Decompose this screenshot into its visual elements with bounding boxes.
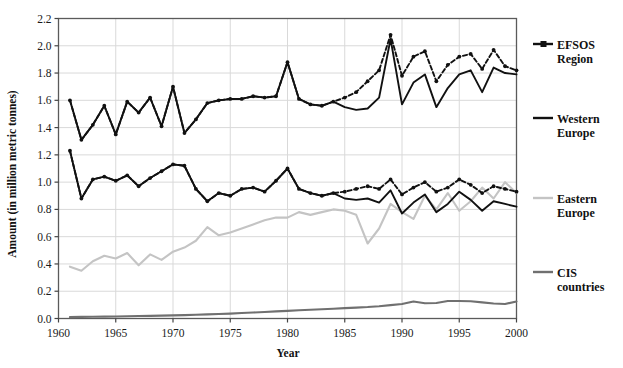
data-point-marker <box>160 169 164 173</box>
y-tick-label: 0.0 <box>37 313 52 325</box>
data-point-marker <box>377 68 381 72</box>
data-point-marker <box>331 100 335 104</box>
data-point-marker <box>297 187 301 191</box>
data-point-marker <box>446 63 450 67</box>
legend-label-line2: Region <box>557 52 593 66</box>
legend-marker-icon <box>541 41 547 47</box>
x-tick-label: 1990 <box>391 327 414 339</box>
data-point-marker <box>148 176 152 180</box>
data-point-marker <box>263 96 267 100</box>
y-tick-label: 2.2 <box>37 13 52 25</box>
data-point-marker <box>320 194 324 198</box>
data-point-marker <box>343 190 347 194</box>
data-point-marker <box>412 186 416 190</box>
y-tick-label: 0.4 <box>37 258 52 270</box>
data-point-marker <box>217 191 221 195</box>
data-point-marker <box>137 111 141 115</box>
data-point-marker <box>228 194 232 198</box>
x-tick-label: 1985 <box>333 327 356 339</box>
data-point-marker <box>114 133 118 137</box>
data-point-marker <box>354 187 358 191</box>
data-point-marker <box>492 48 496 52</box>
y-tick-label: 1.0 <box>37 176 52 188</box>
data-point-marker <box>503 64 507 68</box>
y-tick-label: 1.2 <box>37 149 52 161</box>
data-point-marker <box>309 103 313 107</box>
data-point-marker <box>457 55 461 59</box>
data-point-marker <box>423 180 427 184</box>
x-axis-title: Year <box>277 347 300 359</box>
data-point-marker <box>400 74 404 78</box>
data-point-marker <box>274 94 278 98</box>
data-point-marker <box>366 184 370 188</box>
data-point-marker <box>503 187 507 191</box>
data-point-marker <box>446 186 450 190</box>
data-point-marker <box>68 98 72 102</box>
data-point-marker <box>480 67 484 71</box>
chart-background <box>0 0 623 368</box>
data-point-marker <box>457 178 461 182</box>
y-tick-label: 2.0 <box>37 40 52 52</box>
x-tick-label: 1995 <box>448 327 471 339</box>
y-tick-label: 0.8 <box>37 203 52 215</box>
data-point-marker <box>80 197 84 201</box>
y-tick-label: 1.4 <box>37 122 52 134</box>
data-point-marker <box>171 85 175 89</box>
x-tick-label: 1965 <box>104 327 127 339</box>
legend-label-line1: Eastern <box>557 192 597 206</box>
data-point-marker <box>228 97 232 101</box>
data-point-marker <box>183 131 187 135</box>
data-point-marker <box>412 55 416 59</box>
y-tick-label: 1.8 <box>37 67 52 79</box>
data-point-marker <box>297 97 301 101</box>
data-point-marker <box>251 186 255 190</box>
data-point-marker <box>251 94 255 98</box>
y-axis-title: Amount (in million metric tonnes) <box>6 90 19 258</box>
data-point-marker <box>515 68 519 72</box>
data-point-marker <box>217 98 221 102</box>
data-point-marker <box>309 191 313 195</box>
data-point-marker <box>434 79 438 83</box>
data-point-marker <box>125 100 129 104</box>
data-point-marker <box>331 191 335 195</box>
data-point-marker <box>137 184 141 188</box>
data-point-marker <box>263 190 267 194</box>
data-point-marker <box>194 118 198 122</box>
data-point-marker <box>240 97 244 101</box>
data-point-marker <box>68 149 72 153</box>
data-point-marker <box>114 179 118 183</box>
data-point-marker <box>102 175 106 179</box>
data-point-marker <box>389 178 393 182</box>
legend-label-line1: EFSOS <box>557 38 595 52</box>
legend-label-line2: Europe <box>557 206 595 220</box>
data-point-marker <box>492 184 496 188</box>
data-point-marker <box>286 167 290 171</box>
data-point-marker <box>354 90 358 94</box>
data-point-marker <box>480 191 484 195</box>
legend-label-line1: CIS <box>557 266 577 280</box>
data-point-marker <box>320 104 324 108</box>
data-point-marker <box>194 187 198 191</box>
data-point-marker <box>469 183 473 187</box>
data-point-marker <box>343 96 347 100</box>
data-point-marker <box>240 187 244 191</box>
data-point-marker <box>400 193 404 197</box>
data-point-marker <box>148 96 152 100</box>
x-tick-label: 2000 <box>505 327 528 339</box>
data-point-marker <box>171 163 175 167</box>
data-point-marker <box>423 49 427 53</box>
x-tick-label: 1980 <box>276 327 299 339</box>
legend-label-line2: countries <box>557 280 605 294</box>
data-point-marker <box>160 124 164 128</box>
data-point-marker <box>91 123 95 127</box>
y-tick-label: 0.6 <box>37 231 52 243</box>
data-point-marker <box>205 199 209 203</box>
data-point-marker <box>91 178 95 182</box>
chart-canvas: 0.00.20.40.60.81.01.21.41.61.82.02.2 196… <box>0 0 623 368</box>
data-point-marker <box>80 138 84 142</box>
x-tick-label: 1975 <box>219 327 242 339</box>
legend-label-line2: Europe <box>557 126 595 140</box>
data-point-marker <box>366 79 370 83</box>
data-point-marker <box>434 190 438 194</box>
data-point-marker <box>274 179 278 183</box>
